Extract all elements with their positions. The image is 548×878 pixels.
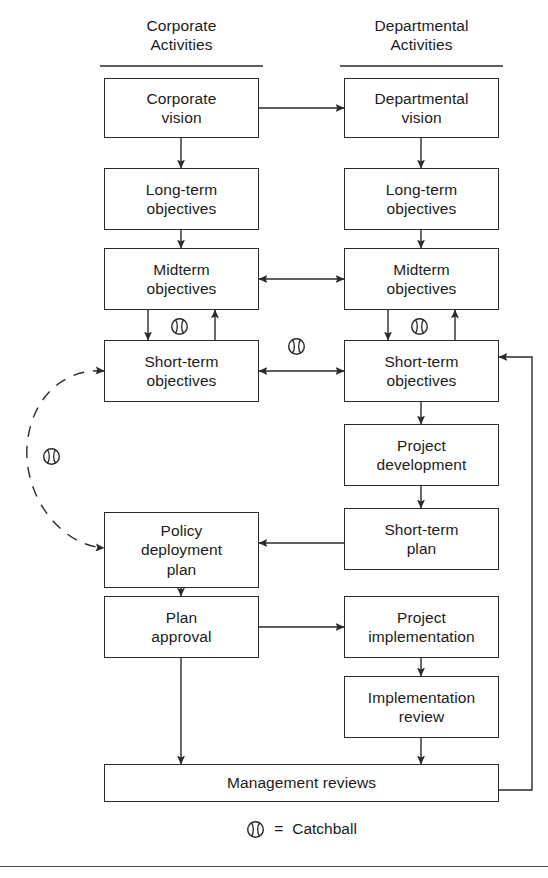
column-header-departmental-line1: Departmental [340,16,503,35]
node-implementation-review[interactable]: Implementation review [344,676,499,738]
footer-divider [0,866,548,867]
legend-label: Catchball [292,820,357,838]
column-header-departmental: Departmental Activities [340,16,503,54]
node-corporate-vision[interactable]: Corporate vision [104,78,259,138]
legend: = Catchball [104,818,499,840]
node-policy-deployment-plan[interactable]: Policy deployment plan [104,512,259,588]
column-header-corporate-line2: Activities [100,35,263,54]
column-header-corporate-line1: Corporate [100,16,263,35]
node-short-term-plan[interactable]: Short-term plan [344,508,499,570]
legend-equals-sign: = [274,820,283,838]
node-departmental-midterm-objectives[interactable]: Midterm objectives [344,248,499,310]
column-header-departmental-line2: Activities [340,35,503,54]
node-management-reviews[interactable]: Management reviews [104,764,499,802]
edge-dashed-catchball-loop-upper [27,371,104,447]
node-corporate-short-term-objectives[interactable]: Short-term objectives [104,340,259,402]
catchball-icon-dashed-loop [42,447,61,466]
edge-dashed-catchball-loop-lower [27,447,104,548]
flowchart-diagram: Corporate Activities Departmental Activi… [0,0,548,878]
catchball-icon-legend [246,820,265,839]
column-header-corporate: Corporate Activities [100,16,263,54]
node-corporate-midterm-objectives[interactable]: Midterm objectives [104,248,259,310]
node-project-development[interactable]: Project development [344,424,499,486]
node-project-implementation[interactable]: Project implementation [344,596,499,658]
node-departmental-long-term-objectives[interactable]: Long-term objectives [344,168,499,230]
node-plan-approval[interactable]: Plan approval [104,596,259,658]
node-corporate-long-term-objectives[interactable]: Long-term objectives [104,168,259,230]
catchball-icon-departmental-midterm-shortterm [410,317,429,336]
catchball-icon-corporate-midterm-shortterm [170,317,189,336]
node-departmental-vision[interactable]: Departmental vision [344,78,499,138]
node-departmental-short-term-objectives[interactable]: Short-term objectives [344,340,499,402]
catchball-icon-short-term-crosslink [287,337,306,356]
edge-management-reviews-feedback-loop [499,357,532,790]
